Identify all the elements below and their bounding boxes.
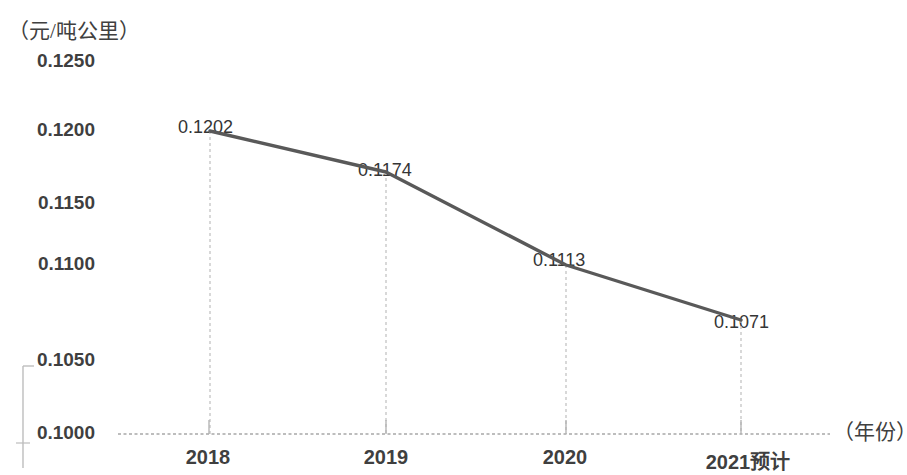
left-axis-stub	[16, 366, 34, 468]
data-series-line	[210, 131, 741, 320]
x-axis-ticks	[209, 420, 741, 434]
